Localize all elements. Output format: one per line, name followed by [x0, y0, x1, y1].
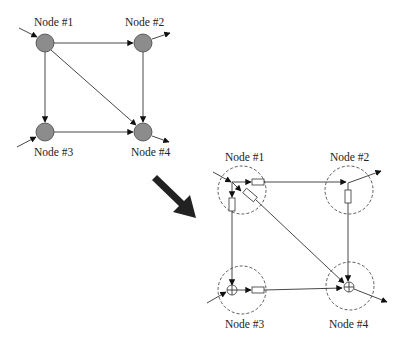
n1-block-right — [252, 179, 264, 185]
node-4-label: Node #4 — [131, 146, 171, 158]
node-1-label: Node #1 — [34, 16, 74, 28]
node-3-label: Node #3 — [225, 318, 265, 330]
node-4 — [134, 123, 152, 141]
node-1-label: Node #1 — [225, 151, 265, 163]
n3-block-right — [252, 287, 264, 293]
n1-block-diag — [243, 188, 258, 202]
node-2-label: Node #2 — [330, 151, 370, 163]
node-3-label: Node #3 — [34, 146, 74, 158]
n1-split-diag — [232, 182, 241, 191]
node-1-boundary — [218, 166, 266, 214]
input-n1 — [19, 28, 37, 37]
node-1 — [36, 34, 54, 52]
node-2 — [134, 34, 152, 52]
transform-arrow-icon — [148, 175, 196, 218]
bottom-graph: Node #1 Node #2 Node #3 Node #4 — [207, 151, 387, 330]
node-3 — [36, 123, 54, 141]
input-n1 — [213, 172, 231, 182]
output-n2 — [348, 171, 381, 183]
input-n3 — [207, 292, 226, 303]
edge-n1-n4 — [51, 50, 136, 125]
edge-n3-n4 — [264, 288, 342, 290]
top-graph: Node #1 Node #2 Node #3 Node #4 — [17, 16, 171, 158]
n2-block-down — [345, 190, 351, 203]
output-n2 — [152, 33, 170, 39]
output-n4 — [152, 136, 169, 142]
output-n4 — [354, 289, 387, 302]
diagram-canvas: Node #1 Node #2 Node #3 Node #4 — [0, 0, 404, 343]
node-4-label: Node #4 — [329, 318, 369, 330]
node-2-label: Node #2 — [125, 16, 165, 28]
edge-n1-n4 — [256, 200, 344, 283]
n1-block-down — [229, 198, 235, 211]
